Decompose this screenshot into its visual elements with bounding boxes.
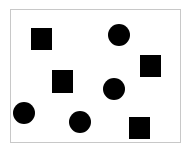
circle-shape-2 — [103, 78, 125, 100]
circle-shape-1 — [108, 24, 130, 46]
square-shape-1 — [31, 28, 52, 50]
circle-shape-3 — [13, 102, 35, 124]
square-shape-3 — [52, 70, 73, 93]
square-shape-4 — [129, 117, 150, 139]
square-shape-2 — [140, 55, 161, 77]
circle-shape-4 — [69, 111, 91, 133]
